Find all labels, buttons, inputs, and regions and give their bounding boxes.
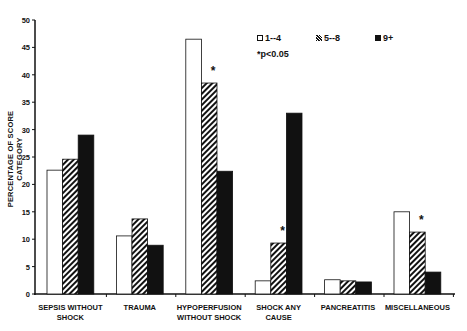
y-tick-label: 10 [22,235,30,244]
y-tick-label: 50 [22,16,30,25]
x-category-label: HYPOPERFUSIONWITHOUT SHOCK [169,303,249,323]
plot-area: *** 05101520253035404550 [0,0,467,331]
significance-marker: * [211,64,216,78]
y-tick-label: 0 [26,290,30,299]
bar [47,170,63,294]
y-tick-label: 5 [26,263,30,272]
bar [340,281,356,294]
y-tick-label: 45 [22,43,30,52]
x-category-label: SHOCK ANYCAUSE [239,303,319,323]
bar [148,245,164,294]
y-tick-label: 40 [22,71,30,80]
x-category-label: MISCELLANEOUS [377,303,457,313]
open-square-icon [257,35,263,41]
bar [286,113,302,294]
bar [116,236,132,294]
significance-marker: * [419,213,424,227]
bar [271,243,287,294]
legend-item-1-4: 1--4 [257,33,281,43]
axes [34,20,455,297]
solid-square-icon [375,35,381,41]
x-category-label: SEPSIS WITHOUTSHOCK [30,303,110,323]
significance-note: *p<0.05 [257,49,289,59]
legend-item-9-plus: 9+ [375,33,393,43]
y-axis-label: PERCENTAGE OF SCORE CATEGORY [6,89,24,229]
bar [255,281,271,294]
bar-chart: *** 05101520253035404550 PERCENTAGE OF S… [0,0,467,331]
bar [325,280,341,294]
bar [186,39,202,294]
bars: *** [47,39,441,294]
significance-marker: * [280,224,285,238]
bar [356,282,372,294]
bar [78,135,94,294]
bar [63,159,79,294]
x-category-label: TRAUMA [100,303,180,313]
bar [410,232,426,294]
bar [217,171,233,294]
bar [201,83,217,294]
hatched-square-icon [316,35,322,41]
bar [425,272,441,294]
bar [132,219,148,294]
bar [394,212,410,294]
x-category-label: PANCREATITIS [308,303,388,313]
legend-item-5-8: 5--8 [316,33,340,43]
